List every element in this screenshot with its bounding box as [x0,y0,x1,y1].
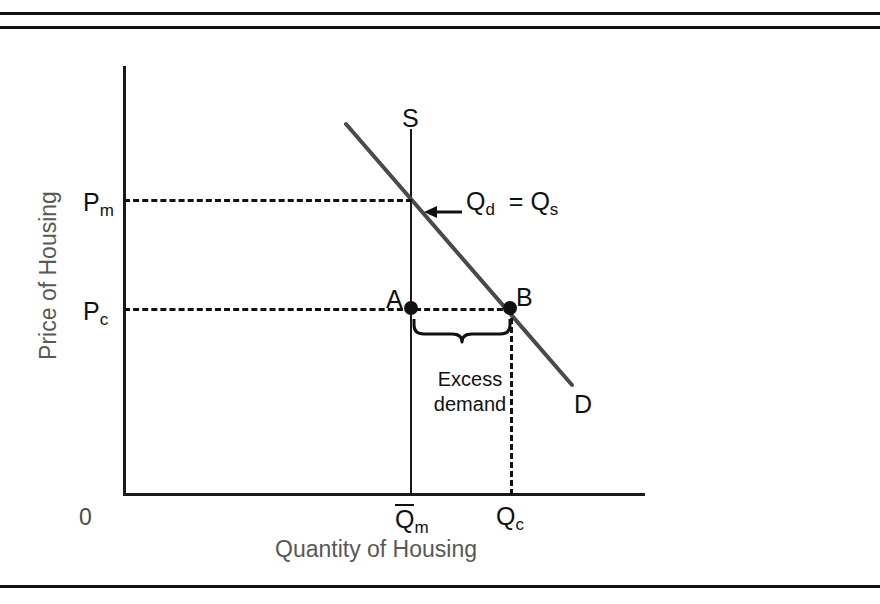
footer-caption-fragment [0,589,880,604]
demand-curve-label: D [574,392,592,417]
quantity-tick-qm: Qm [395,504,429,532]
equilibrium-arrow [424,206,462,218]
price-tick-pm-base: P [83,188,100,216]
x-axis-title: Quantity of Housing [275,538,477,561]
price-tick-pm: Pm [83,190,114,215]
point-a-marker [404,301,418,315]
equilibrium-equals: = [509,187,524,215]
equilibrium-rhs-base: Q [530,187,549,215]
price-pc-guide-line [124,308,512,311]
y-axis-title: Price of Housing [37,166,60,386]
point-b-label: B [516,285,533,310]
equilibrium-annotation: Qd = Qs [466,189,558,214]
origin-label: 0 [79,506,92,529]
point-b-marker [503,301,517,315]
vector-overlay [0,29,880,585]
bottom-rule [0,585,880,588]
supply-demand-chart: S D A B Pm Pc Qm Qc 0 Qd = Qs Excess dem… [0,29,880,585]
quantity-tick-qc-sub: c [515,515,524,534]
quantity-tick-qc-base: Q [496,502,515,530]
equilibrium-lhs-base: Q [466,187,485,215]
equilibrium-lhs-sub: d [485,200,494,219]
demand-curve [346,124,572,385]
price-tick-pc-base: P [83,297,100,325]
excess-demand-brace [414,319,510,342]
top-rule-1 [0,12,880,15]
price-tick-pm-sub: m [100,201,114,220]
supply-curve-label: S [402,106,419,131]
price-tick-pc-sub: c [100,310,109,329]
quantity-tick-qm-base: Q [395,504,414,532]
quantity-tick-qm-sub: m [414,518,428,537]
price-tick-pc: Pc [83,299,108,324]
figure-page: S D A B Pm Pc Qm Qc 0 Qd = Qs Excess dem… [0,0,880,604]
price-pm-guide-line [124,199,412,202]
quantity-tick-qc: Qc [496,504,524,529]
excess-demand-label: Excess demand [424,367,516,417]
equilibrium-rhs-sub: s [550,200,559,219]
point-a-label: A [386,287,403,312]
